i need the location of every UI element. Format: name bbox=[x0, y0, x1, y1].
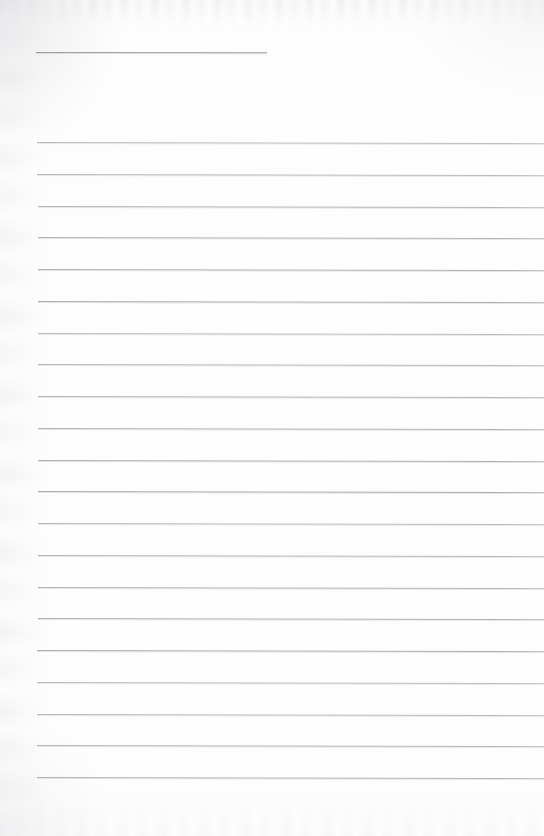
notebook-page bbox=[0, 0, 544, 836]
document-title-text bbox=[40, 30, 266, 50]
document-body-text bbox=[40, 118, 520, 778]
